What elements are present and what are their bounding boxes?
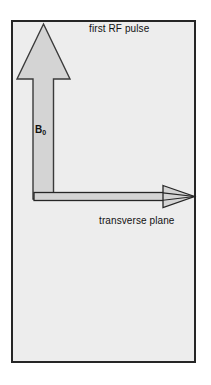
annotation-transverse-plane: transverse plane — [99, 215, 175, 227]
figure-root: first RF pulse transverse plane B0 — [0, 0, 211, 385]
annotation-first-rf-pulse: first RF pulse — [89, 23, 149, 35]
figure-frame — [11, 20, 196, 363]
b0-subscript: 0 — [42, 129, 46, 136]
annotation-b0-label: B0 — [35, 124, 46, 137]
